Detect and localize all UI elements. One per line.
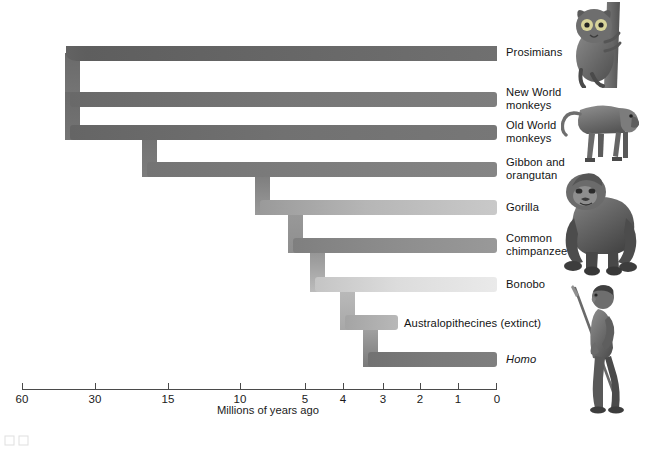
ribbon-bonobo bbox=[315, 277, 497, 292]
ribbon-common-chimpanzee bbox=[293, 238, 497, 253]
axis-tick-30: 30 bbox=[89, 393, 102, 405]
tip-label-gorilla: Gorilla bbox=[506, 201, 539, 214]
ribbon-old-world-monkeys bbox=[70, 125, 497, 140]
axis-tick-15: 15 bbox=[162, 393, 175, 405]
axis-tick-1: 1 bbox=[455, 393, 461, 405]
axis-tick-3: 3 bbox=[380, 393, 386, 405]
gorilla-illustration bbox=[556, 166, 642, 276]
ribbon-australopithecines bbox=[345, 315, 398, 330]
axis-tick-4: 4 bbox=[340, 393, 346, 405]
ribbon-homo bbox=[368, 352, 497, 367]
tip-label-old-world-monkeys: Old World monkeys bbox=[506, 119, 556, 144]
tip-label-prosimians: Prosimians bbox=[506, 46, 562, 59]
ribbon-new-world-monkeys bbox=[70, 92, 497, 107]
axis-caption: Millions of years ago bbox=[217, 404, 319, 416]
axis-tick-2: 2 bbox=[417, 393, 423, 405]
axis-ticks bbox=[23, 383, 497, 389]
axis-tick-0: 0 bbox=[494, 393, 500, 405]
tarsier-illustration bbox=[567, 2, 633, 88]
tip-label-australopithecines: Australopithecines (extinct) bbox=[404, 317, 541, 330]
ribbon-prosimians bbox=[14, 46, 497, 61]
figure-corner-mark bbox=[4, 432, 50, 447]
baboon-illustration bbox=[561, 88, 641, 166]
hominid-illustration bbox=[565, 282, 635, 414]
tip-label-homo: Homo bbox=[506, 353, 536, 366]
ribbon-gibbon-orangutan bbox=[147, 162, 497, 177]
figure-canvas: Prosimians New World monkeys Old World m… bbox=[0, 0, 660, 453]
tip-label-bonobo: Bonobo bbox=[506, 278, 545, 291]
time-axis bbox=[22, 383, 497, 390]
ribbon-gorilla bbox=[260, 200, 497, 215]
axis-tick-60: 60 bbox=[16, 393, 29, 405]
tip-label-new-world-monkeys: New World monkeys bbox=[506, 86, 561, 111]
